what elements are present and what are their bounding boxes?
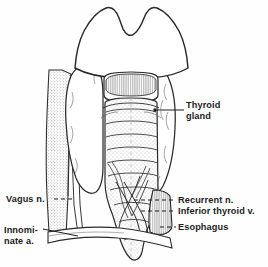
label-inferior-thyroid-v: Inferior thyroid v. — [178, 206, 255, 217]
label-esophagus: Esophagus — [178, 222, 228, 233]
label-innominate-a: Innomi- nate a. — [4, 225, 38, 247]
label-vagus-n: Vagus n. — [6, 194, 45, 205]
esophagus-shape — [149, 190, 172, 235]
label-innominate-a-line1: Innomi- — [4, 225, 38, 236]
label-thyroid-gland-line1: Thyroid — [186, 100, 220, 111]
label-recurrent-n: Recurrent n. — [178, 195, 233, 206]
label-innominate-a-line2: nate a. — [4, 236, 38, 247]
label-thyroid-gland: Thyroid gland — [186, 100, 220, 122]
label-thyroid-gland-line2: gland — [186, 111, 220, 122]
illustration-page: Thyroid gland Recurrent n. Inferior thyr… — [0, 0, 268, 267]
